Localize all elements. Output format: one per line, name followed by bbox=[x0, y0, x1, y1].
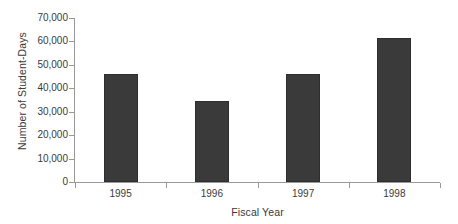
bar-1995 bbox=[104, 74, 138, 182]
y-axis-tick-label: 30,000 bbox=[20, 107, 68, 117]
x-axis-tick-labels: 1995199619971998 bbox=[75, 189, 440, 205]
x-axis-tick-mark bbox=[75, 183, 76, 188]
x-axis-tick-mark bbox=[258, 183, 259, 188]
x-axis-tick-label: 1998 bbox=[354, 189, 434, 199]
bar-1996 bbox=[195, 101, 229, 182]
y-axis-tick-label: 50,000 bbox=[20, 60, 68, 70]
y-axis-tick-mark bbox=[69, 41, 74, 42]
plot-area bbox=[75, 18, 440, 182]
y-axis-tick-mark bbox=[69, 112, 74, 113]
x-axis-tick-label: 1996 bbox=[172, 189, 252, 199]
y-axis-tick-label: 60,000 bbox=[20, 36, 68, 46]
bar-1997 bbox=[286, 74, 320, 182]
x-axis-tick-mark bbox=[440, 183, 441, 188]
bar-1998 bbox=[377, 38, 411, 182]
x-axis-tick-mark bbox=[166, 183, 167, 188]
y-axis-tick-mark bbox=[69, 88, 74, 89]
x-axis-tick-mark bbox=[349, 183, 350, 188]
y-axis-tick-label: 70,000 bbox=[20, 13, 68, 23]
y-axis-tick-mark bbox=[69, 135, 74, 136]
y-axis-tick-label: 20,000 bbox=[20, 130, 68, 140]
y-axis-tick-label: 0 bbox=[20, 177, 68, 187]
y-axis-tick-label: 10,000 bbox=[20, 154, 68, 164]
x-axis-tick-label: 1995 bbox=[81, 189, 161, 199]
y-axis-tick-labels: 010,00020,00030,00040,00050,00060,00070,… bbox=[20, 0, 68, 224]
y-axis-tick-mark bbox=[69, 159, 74, 160]
bar-chart: Number of Student-Days 010,00020,00030,0… bbox=[0, 0, 458, 224]
y-axis-tick-label: 40,000 bbox=[20, 83, 68, 93]
y-axis-tick-mark bbox=[69, 18, 74, 19]
y-axis-tick-mark bbox=[69, 65, 74, 66]
y-axis-tick-mark bbox=[69, 182, 74, 183]
x-axis-title: Fiscal Year bbox=[75, 206, 440, 218]
x-axis-tick-label: 1997 bbox=[263, 189, 343, 199]
